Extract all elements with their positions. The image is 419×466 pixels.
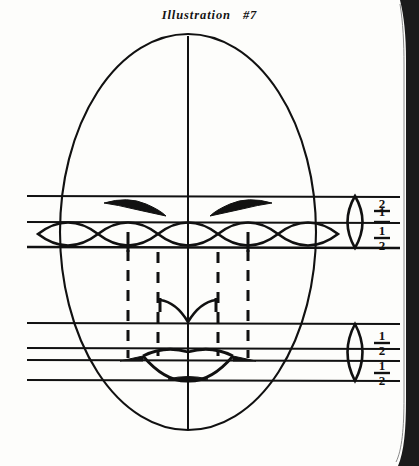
right-scale-lower-denominator-top: 2 xyxy=(379,343,386,358)
guide-line-eye-top xyxy=(27,222,400,223)
right-scale-lower-numerator-bottom: 1 xyxy=(379,358,386,373)
guide-line-nose-base xyxy=(27,323,400,324)
right-scale-upper-numerator-bottom: 1 xyxy=(379,223,386,238)
face-proportion-diagram: 1 2 1 2 1 2 1 2 xyxy=(0,0,419,466)
eye-lens-5 xyxy=(278,223,338,246)
mouth-corner-right xyxy=(233,356,256,361)
nose-wing-right xyxy=(188,300,216,322)
right-scale-lower: 1 2 1 2 xyxy=(348,324,391,388)
right-scale-upper: 1 2 1 2 xyxy=(348,196,391,253)
eyebrow-left xyxy=(104,200,166,216)
nose-wing-left xyxy=(160,300,188,322)
eye-zone-guide-lines xyxy=(27,196,400,248)
right-scale-lower-denominator-bottom: 2 xyxy=(379,373,386,388)
eyebrow-right xyxy=(210,200,272,216)
guide-line-eye-bottom xyxy=(27,247,400,248)
right-scale-upper-denominator-bottom: 2 xyxy=(379,238,386,253)
guide-line-brow-top xyxy=(27,196,400,197)
guide-line-mouth-bottom xyxy=(27,380,400,381)
right-scale-upper-denominator-top: 2 xyxy=(379,196,386,211)
mouth-center-shadow xyxy=(168,377,208,382)
scan-edge-border xyxy=(398,0,419,466)
mouth-corner-left xyxy=(120,356,143,361)
scan-edge-inner-line xyxy=(396,4,404,462)
right-scale-lower-lens xyxy=(348,324,363,381)
guide-line-mouth-mid xyxy=(27,360,400,361)
right-scale-lower-numerator-top: 1 xyxy=(379,328,386,343)
illustration-page: ........ Illustration #7 xyxy=(0,0,419,466)
eye-lens-1 xyxy=(38,223,98,246)
